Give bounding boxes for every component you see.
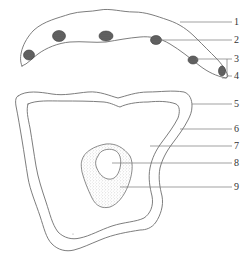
label-4: 4 bbox=[234, 70, 239, 81]
lower-cell bbox=[16, 91, 192, 251]
upper-cell bbox=[21, 9, 229, 78]
label-5: 5 bbox=[234, 98, 239, 109]
granule bbox=[24, 50, 35, 60]
upper-cell-outline bbox=[21, 9, 229, 78]
label-1: 1 bbox=[234, 16, 239, 27]
label-9: 9 bbox=[234, 181, 239, 192]
granule bbox=[53, 31, 66, 42]
label-8: 8 bbox=[234, 157, 239, 168]
granule bbox=[188, 56, 198, 64]
granule bbox=[151, 36, 162, 45]
label-7: 7 bbox=[234, 140, 239, 151]
label-3: 3 bbox=[234, 53, 239, 64]
labels: 1 2 3 4 5 6 7 8 9 bbox=[234, 16, 239, 192]
granule bbox=[99, 31, 113, 41]
speck bbox=[72, 233, 73, 234]
granule bbox=[219, 66, 226, 76]
label-2: 2 bbox=[234, 34, 239, 45]
label-6: 6 bbox=[234, 123, 239, 134]
cell-diagram: 1 2 3 4 5 6 7 8 9 bbox=[0, 0, 243, 278]
